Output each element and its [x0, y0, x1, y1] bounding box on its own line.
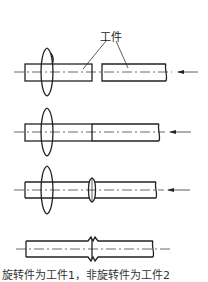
arrow-left-icon: [167, 188, 174, 192]
stationary-workpiece: [102, 64, 167, 81]
workpiece-label: 工件: [100, 28, 122, 44]
arrow-left-icon: [169, 130, 176, 134]
arrow-left-icon: [177, 70, 184, 74]
stage-3: [14, 166, 190, 214]
stage-4: [16, 237, 172, 261]
caption: 旋转件为工件1，非旋转件为工件2: [2, 266, 170, 282]
rotating-workpiece: [25, 64, 92, 81]
stage-2: [14, 108, 191, 156]
stage-1: [14, 41, 198, 96]
